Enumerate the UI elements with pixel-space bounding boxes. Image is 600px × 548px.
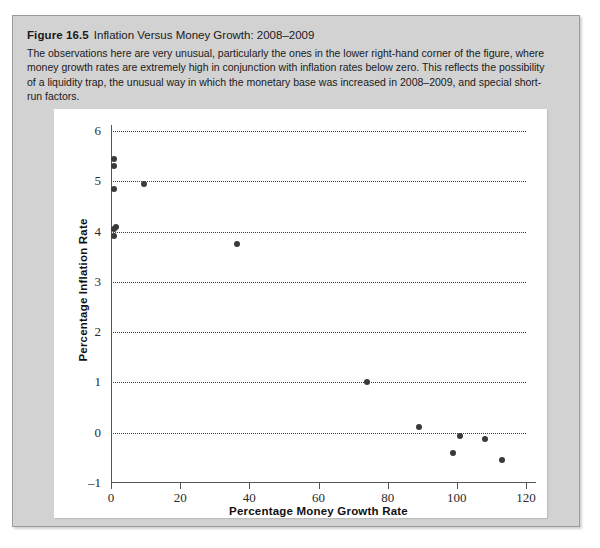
- chart-plot-area: 020406080100120 –10123456: [111, 131, 526, 483]
- x-axis-tick: [457, 483, 458, 489]
- gridline: [111, 282, 526, 283]
- gridline: [111, 332, 526, 333]
- gridline: [111, 433, 526, 434]
- x-axis-tick-label: 80: [381, 490, 394, 506]
- scatter-point: [416, 424, 422, 430]
- scatter-point: [111, 233, 117, 239]
- x-axis-tick-label: 20: [174, 490, 187, 506]
- scatter-point: [499, 457, 505, 463]
- chart-panel: 020406080100120 –10123456 Percentage Mon…: [54, 109, 547, 518]
- scatter-point: [141, 181, 147, 187]
- x-axis-tick-label: 120: [516, 490, 536, 506]
- scatter-point: [364, 379, 370, 385]
- x-axis-title: Percentage Money Growth Rate: [111, 505, 526, 517]
- x-axis-line: [111, 482, 536, 483]
- x-axis-tick: [180, 483, 181, 489]
- y-axis-tick-label: –1: [88, 475, 101, 491]
- scatter-point: [234, 241, 240, 247]
- y-axis-line: [111, 125, 112, 483]
- scatter-point: [482, 436, 488, 442]
- figure-description: The observations here are very unusual, …: [27, 46, 555, 104]
- gridline: [111, 131, 526, 132]
- x-axis-tick-label: 60: [312, 490, 325, 506]
- y-axis-tick-label: 3: [95, 274, 102, 290]
- y-axis-tick-label: 2: [95, 324, 102, 340]
- scatter-point: [111, 186, 117, 192]
- y-axis-tick-label: 4: [95, 224, 102, 240]
- scatter-point: [111, 163, 117, 169]
- x-axis-tick: [388, 483, 389, 489]
- scatter-point: [457, 433, 463, 439]
- figure-caption: Figure 16.5Inflation Versus Money Growth…: [27, 28, 555, 104]
- x-axis-tick-label: 0: [108, 490, 115, 506]
- scatter-point: [111, 156, 117, 162]
- y-axis-title: Percentage Inflation Rate: [77, 140, 89, 440]
- gridline: [111, 181, 526, 182]
- gridline: [111, 382, 526, 383]
- y-axis-tick-label: 1: [95, 374, 102, 390]
- x-axis-tick-label: 40: [243, 490, 256, 506]
- figure-title: Inflation Versus Money Growth: 2008–2009: [94, 29, 315, 41]
- figure-caption-title: Figure 16.5Inflation Versus Money Growth…: [27, 28, 555, 43]
- figure-number: Figure 16.5: [27, 29, 89, 41]
- x-axis-tick: [319, 483, 320, 489]
- scatter-point: [450, 450, 456, 456]
- y-axis-tick-label: 0: [95, 425, 102, 441]
- x-axis-tick: [526, 483, 527, 489]
- gridline: [111, 232, 526, 233]
- x-axis-tick: [249, 483, 250, 489]
- x-axis-tick: [111, 483, 112, 489]
- x-axis-tick-label: 100: [447, 490, 467, 506]
- figure-container: Figure 16.5Inflation Versus Money Growth…: [12, 15, 580, 527]
- y-axis-tick-label: 5: [95, 173, 102, 189]
- y-axis-tick-label: 6: [95, 123, 102, 139]
